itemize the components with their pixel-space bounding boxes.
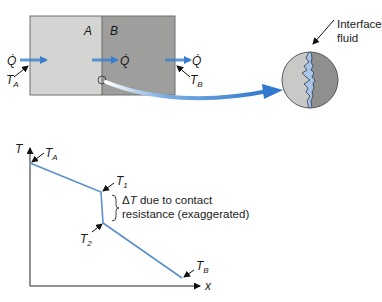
q-dot-left: Q̇: [7, 54, 16, 68]
label-t2: T2: [80, 232, 92, 248]
label-t1: T1: [116, 174, 128, 190]
label-interface: Interface: [337, 18, 382, 30]
x-axis-label: x: [204, 279, 212, 293]
label-tb-block: TB: [190, 73, 203, 89]
temperature-profile: [30, 163, 182, 278]
y-axis-label: T: [15, 142, 24, 156]
delta-t-brace: [112, 195, 119, 221]
magnified-interface: [282, 52, 339, 108]
magnify-arrowhead: [262, 84, 283, 99]
temperature-graph: T x TA T1 T2 TB ΔT due to contact resist…: [15, 142, 249, 293]
interface-fluid-label: Interface fluid: [313, 18, 382, 44]
q-dot-middle: Q̇: [120, 54, 129, 68]
label-fluid: fluid: [337, 32, 358, 44]
delta-t-annotation-line1: ΔT due to contact: [122, 194, 213, 206]
label-tb-graph: TB: [196, 259, 209, 275]
label-b: B: [110, 24, 118, 38]
label-ta-graph: TA: [45, 146, 58, 162]
composite-block: A B: [30, 16, 175, 95]
heat-conduction-diagram: A B Q̇ Q̇ Q̇ TA TB Interface fluid: [0, 0, 382, 302]
delta-t-annotation-line2: resistance (exaggerated): [122, 208, 249, 220]
label-a: A: [83, 24, 92, 38]
q-dot-right: Q̇: [192, 54, 201, 68]
